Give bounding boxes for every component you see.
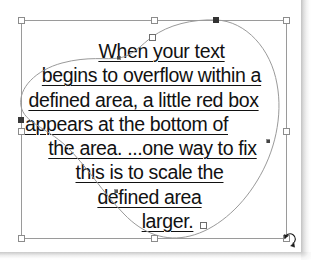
text-line: larger.: [12, 209, 289, 233]
page-shadow-corner: [301, 252, 311, 260]
text-line: begins to overflow within a: [12, 63, 289, 87]
page-shadow-right: [301, 0, 311, 252]
text-line: the area. ...one way to fix: [12, 136, 289, 160]
text-line: defined area, a little red box: [12, 88, 289, 112]
artwork-text-block[interactable]: When your text begins to overflow within…: [12, 39, 289, 233]
text-line: defined area: [12, 185, 289, 209]
text-line: this is to scale the: [12, 160, 289, 184]
text-line: When your text: [12, 39, 289, 63]
page-shadow-bottom: [0, 252, 301, 260]
illustration-canvas[interactable]: When your text begins to overflow within…: [0, 0, 319, 260]
text-line: appears at the bottom of: [12, 112, 289, 136]
